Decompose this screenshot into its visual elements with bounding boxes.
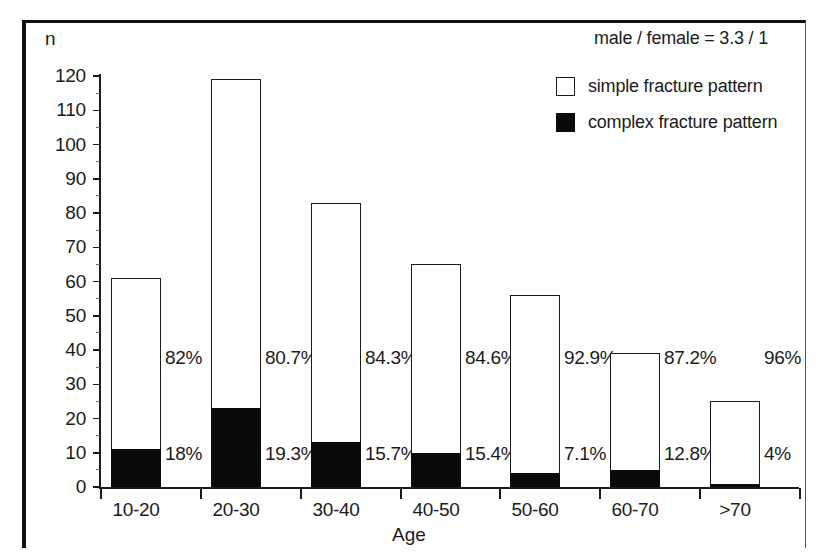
bar-segment-simple bbox=[710, 401, 760, 487]
x-axis-tick bbox=[400, 488, 402, 499]
bar-label-simple-percent: 92.9% bbox=[564, 347, 616, 369]
y-axis-tick bbox=[93, 75, 100, 77]
x-axis-tick-label: 10-20 bbox=[81, 499, 191, 521]
x-axis-line bbox=[99, 487, 799, 489]
x-axis-tick bbox=[100, 488, 102, 499]
y-axis-minor-tick bbox=[96, 161, 100, 162]
bar-label-complex-percent: 4% bbox=[764, 443, 791, 465]
bar-segment-complex bbox=[610, 470, 660, 487]
bar-label-complex-percent: 15.7% bbox=[365, 443, 417, 465]
x-axis-tick bbox=[699, 488, 701, 499]
y-axis-tick bbox=[93, 315, 100, 317]
x-axis-tick bbox=[599, 488, 601, 499]
x-axis-tick-label: 40-50 bbox=[381, 499, 491, 521]
y-axis-tick-label: 100 bbox=[26, 134, 86, 156]
bar-label-simple-percent: 82% bbox=[165, 347, 202, 369]
y-axis-minor-tick bbox=[96, 93, 100, 94]
y-axis-tick bbox=[93, 486, 100, 488]
bar-segment-simple bbox=[610, 353, 660, 487]
y-axis-tick bbox=[93, 110, 100, 112]
y-axis-minor-tick bbox=[96, 401, 100, 402]
legend-label-complex: complex fracture pattern bbox=[588, 112, 777, 133]
x-axis-tick bbox=[799, 488, 801, 499]
y-axis-tick-label: 0 bbox=[26, 476, 86, 498]
bar-label-complex-percent: 12.8% bbox=[664, 443, 716, 465]
y-axis-tick bbox=[93, 281, 100, 283]
y-axis-tick-label: 10 bbox=[26, 442, 86, 464]
y-axis-tick bbox=[93, 384, 100, 386]
x-axis-tick-label: 60-70 bbox=[580, 499, 690, 521]
x-axis-title: Age bbox=[0, 524, 818, 546]
y-axis-tick bbox=[93, 418, 100, 420]
bar-segment-simple bbox=[510, 295, 560, 487]
y-axis-tick-label: 60 bbox=[26, 271, 86, 293]
x-axis-tick bbox=[300, 488, 302, 499]
y-axis-tick-label: 30 bbox=[26, 373, 86, 395]
legend-item-simple: simple fracture pattern bbox=[556, 76, 762, 97]
y-axis-tick-label: 20 bbox=[26, 408, 86, 430]
bar-segment-complex bbox=[111, 449, 161, 487]
y-axis-minor-tick bbox=[96, 127, 100, 128]
bar-label-complex-percent: 19.3% bbox=[265, 443, 317, 465]
y-axis-minor-tick bbox=[96, 469, 100, 470]
bar-segment-complex bbox=[710, 484, 760, 487]
bar-label-complex-percent: 7.1% bbox=[564, 443, 606, 465]
y-axis-tick-label: 40 bbox=[26, 339, 86, 361]
y-axis-tick-label: 70 bbox=[26, 236, 86, 258]
y-axis-tick-label: 50 bbox=[26, 305, 86, 327]
x-axis-tick-label: 50-60 bbox=[480, 499, 590, 521]
x-axis-tick-label: 30-40 bbox=[281, 499, 391, 521]
y-axis-minor-tick bbox=[96, 230, 100, 231]
bar-segment-complex bbox=[211, 408, 261, 487]
y-axis-minor-tick bbox=[96, 332, 100, 333]
y-axis-tick bbox=[93, 178, 100, 180]
y-axis-title: n bbox=[45, 28, 56, 50]
x-axis-tick bbox=[499, 488, 501, 499]
y-axis-minor-tick bbox=[96, 264, 100, 265]
bar-segment-complex bbox=[510, 473, 560, 487]
y-axis-tick-label: 80 bbox=[26, 202, 86, 224]
y-axis-tick-label: 120 bbox=[26, 65, 86, 87]
bar-label-simple-percent: 87.2% bbox=[664, 347, 716, 369]
legend-swatch-complex-icon bbox=[556, 113, 575, 132]
y-axis-minor-tick bbox=[96, 367, 100, 368]
bar-segment-complex bbox=[411, 453, 461, 487]
y-axis-minor-tick bbox=[96, 435, 100, 436]
bar-label-simple-percent: 84.3% bbox=[365, 347, 417, 369]
y-axis-tick bbox=[93, 144, 100, 146]
legend-label-simple: simple fracture pattern bbox=[588, 76, 762, 97]
y-axis-tick bbox=[93, 247, 100, 249]
y-axis-tick bbox=[93, 212, 100, 214]
y-axis-tick bbox=[93, 349, 100, 351]
bar-label-simple-percent: 96% bbox=[764, 347, 801, 369]
legend-item-complex: complex fracture pattern bbox=[556, 112, 777, 133]
legend-swatch-simple-icon bbox=[556, 77, 575, 96]
male-female-ratio-note: male / female = 3.3 / 1 bbox=[594, 28, 768, 49]
bar-label-simple-percent: 80.7% bbox=[265, 347, 317, 369]
y-axis-tick-label: 110 bbox=[26, 99, 86, 121]
x-axis-tick bbox=[200, 488, 202, 499]
y-axis-tick bbox=[93, 452, 100, 454]
bar-label-complex-percent: 18% bbox=[165, 443, 202, 465]
figure-canvas: n 0102030405060708090100110120 10-2020-3… bbox=[0, 0, 818, 555]
x-axis-tick-label: 20-30 bbox=[181, 499, 291, 521]
y-axis-minor-tick bbox=[96, 195, 100, 196]
y-axis-minor-tick bbox=[96, 298, 100, 299]
bar-segment-complex bbox=[311, 442, 361, 487]
x-axis-tick-label: >70 bbox=[680, 499, 790, 521]
y-axis-tick-label: 90 bbox=[26, 168, 86, 190]
